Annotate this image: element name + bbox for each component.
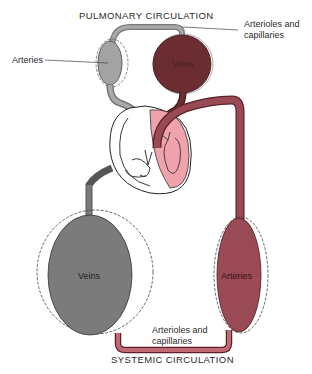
systemic-capillaries-label-line2: capillaries (152, 336, 192, 346)
circulation-diagram (0, 0, 312, 374)
pulmonary-capillaries-label-line2: capillaries (244, 30, 284, 40)
systemic-arteries-label: Arteries (221, 271, 252, 281)
vena-cava-vessel (89, 168, 112, 218)
pulmonary-circulation-title: PULMONARY CIRCULATION (79, 10, 214, 21)
systemic-capillaries-label-line1: Arterioles and (152, 325, 208, 335)
capillaries-leader-line (183, 27, 238, 30)
systemic-veins-label: Veins (78, 271, 100, 281)
systemic-circulation-title: SYSTEMIC CIRCULATION (111, 354, 234, 365)
pulmonary-arteries-label: Arteries (12, 55, 43, 65)
pulmonary-veins-label: Veins (172, 59, 194, 69)
pulmonary-capillaries-label-line1: Arterioles and (244, 19, 300, 29)
